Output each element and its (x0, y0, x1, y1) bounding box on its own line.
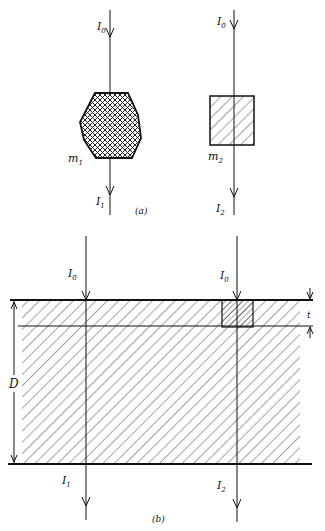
caption-a: (a) (135, 206, 148, 216)
label-i2-b: I2 (216, 479, 226, 494)
label-i0-b1: I0 (67, 267, 77, 282)
label-i0-a1: I0 (96, 20, 106, 35)
label-m2: m2 (208, 150, 223, 165)
label-i2-a: I2 (215, 202, 225, 217)
label-t: t (307, 310, 311, 320)
label-i1-a: I1 (95, 195, 105, 210)
label-i0-a2: I0 (216, 15, 226, 30)
label-i1-b: I1 (61, 474, 71, 489)
absorption-diagram: I0 m1 I1 I0 m2 I2 (a) D (0, 0, 325, 531)
sample-m1 (80, 93, 141, 158)
part-b: D t I0 I0 I1 I2 (b) (8, 236, 313, 524)
part-a: I0 m1 I1 I0 m2 I2 (a) (68, 10, 254, 217)
label-D: D (8, 377, 19, 391)
slab (22, 300, 300, 464)
label-i0-b2: I0 (219, 269, 229, 284)
sample-m2 (210, 96, 254, 145)
caption-b: (b) (152, 514, 165, 524)
label-m1: m1 (68, 152, 83, 167)
